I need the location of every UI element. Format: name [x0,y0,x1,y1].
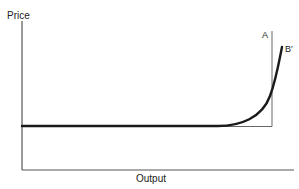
curve-b-prime [22,47,282,126]
price-output-chart: Price Output A B′ [0,0,299,189]
curve-b-label: B′ [285,44,293,54]
y-axis-label: Price [7,10,30,21]
x-axis-label: Output [136,173,166,184]
line-a-label: A [262,30,268,40]
